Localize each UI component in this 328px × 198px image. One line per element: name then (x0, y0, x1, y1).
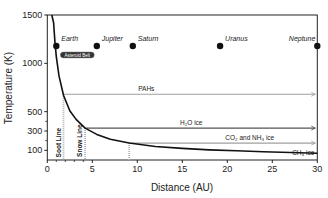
vertical-marker-label: Snow Line (76, 124, 83, 157)
x-tick-label: 25 (267, 164, 277, 174)
x-tick-label: 0 (45, 164, 50, 174)
x-tick-label: 5 (90, 164, 95, 174)
y-tick-label: 100 (27, 145, 42, 155)
planet-label-saturn: Saturn (138, 35, 159, 42)
temperature-distance-chart: 05101520253010030050010001500 PAHsH₂O ic… (0, 0, 328, 198)
planet-dot-saturn (130, 43, 136, 49)
vertical-lines: Soot LineSnow Line (55, 94, 130, 160)
y-tick-label: 1500 (22, 10, 42, 20)
y-tick-label: 500 (27, 107, 42, 117)
planet-dot-uranus (217, 43, 223, 49)
y-tick-label: 1000 (22, 58, 42, 68)
x-tick-label: 30 (312, 164, 322, 174)
temperature-curve-line (52, 15, 318, 153)
y-tick-label: 300 (27, 126, 42, 136)
planet-dot-neptune (314, 43, 320, 49)
x-tick-label: 10 (132, 164, 142, 174)
asteroid-belt-label: Asteroid Belt (65, 53, 91, 58)
x-axis-title: Distance (AU) (151, 182, 213, 193)
x-tick-label: 15 (177, 164, 187, 174)
zone-label: H₂O ice (180, 119, 203, 126)
planet-dot-jupiter (94, 43, 100, 49)
planet-label-jupiter: Jupiter (101, 35, 124, 43)
zone-label: PAHs (138, 85, 155, 92)
plot-frame (47, 15, 317, 160)
x-tick-label: 20 (222, 164, 232, 174)
zone-label: CO₂ and NH₃ ice (225, 134, 274, 141)
condensation-zones: PAHsH₂O iceCO₂ and NH₃ iceCH₄ ice (64, 85, 316, 156)
planet-label-neptune: Neptune (289, 35, 316, 43)
planet-label-uranus: Uranus (225, 35, 248, 42)
temperature-curve (52, 15, 318, 153)
planet-dot-earth (53, 43, 59, 49)
vertical-marker-label: Soot Line (55, 127, 62, 157)
planets: EarthJupiterSaturnUranusNeptuneAsteroid … (53, 35, 320, 58)
y-axis-title: Temperature (K) (3, 52, 14, 124)
planet-label-earth: Earth (61, 35, 78, 42)
